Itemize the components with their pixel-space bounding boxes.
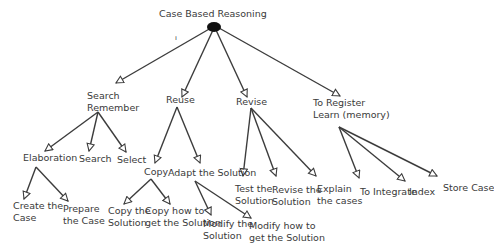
node-copy: Copy <box>144 166 168 178</box>
node-modify-solution: Modify theSolution <box>203 218 253 242</box>
node-revise-solution: Revise theSolution <box>272 184 322 208</box>
root-node-dot <box>207 22 221 32</box>
node-to-register: To RegisterLearn (memory) <box>313 97 390 121</box>
edge-revise-test <box>243 108 251 176</box>
edge-copy-solution <box>124 179 151 204</box>
edge-elab-prepare <box>36 167 68 201</box>
root-label: Case Based Reasoning <box>159 8 267 20</box>
node-search: Search <box>79 153 112 165</box>
node-elaboration: Elaboration <box>23 152 77 164</box>
node-test-solution: Test theSolution <box>235 183 274 207</box>
edge-revise-explain <box>251 108 316 176</box>
node-store-case: Store Case <box>443 182 494 194</box>
node-adapt-solution: Adapt the Solution <box>168 167 256 179</box>
edge-revise-revise <box>251 108 276 176</box>
node-modify-how: Modify how toget the Solution <box>249 220 325 244</box>
edge-root-register <box>219 28 340 96</box>
edge-elab-create <box>24 167 36 199</box>
edge-reuse-copy <box>155 107 177 163</box>
edge-root-revise <box>216 30 247 97</box>
cbr-diagram: Case Based Reasoning ı SearchRemember Re… <box>0 0 494 252</box>
edge-search-select <box>98 112 126 152</box>
edge-copy-how <box>151 179 170 204</box>
node-reuse: Reuse <box>166 94 195 106</box>
node-explain-cases: Explainthe cases <box>317 183 362 207</box>
node-select: Select <box>117 154 146 166</box>
node-prepare-case: Preparethe Case <box>63 203 105 227</box>
edge-root-reuse <box>182 30 213 97</box>
node-index: Index <box>409 186 435 198</box>
edge-reuse-adapt <box>177 107 200 163</box>
edge-register-store <box>339 127 437 176</box>
node-revise: Revise <box>236 96 267 108</box>
edge-root-search <box>116 28 211 83</box>
node-search-remember: SearchRemember <box>87 90 139 114</box>
node-create-case: Create theCase <box>13 200 63 224</box>
root-annotation: ı <box>175 32 177 44</box>
